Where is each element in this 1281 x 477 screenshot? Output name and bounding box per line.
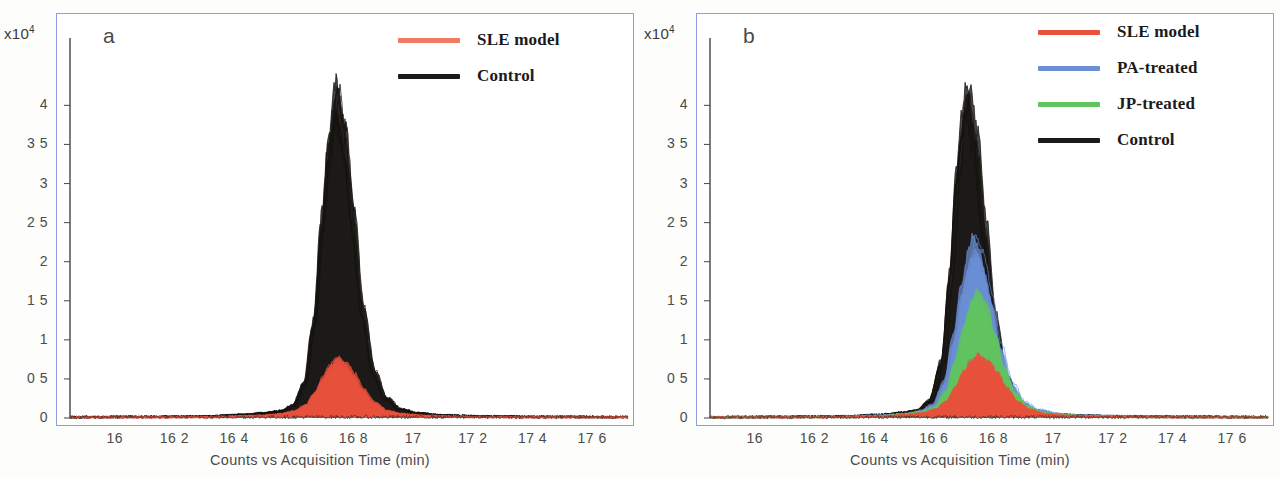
panel-a: x104 a SLE model Control 00 511 522 533 … xyxy=(0,0,640,477)
panel-a-legend: SLE model Control xyxy=(398,30,560,102)
legend-swatch-sle-model xyxy=(1038,30,1100,35)
legend-item: JP-treated xyxy=(1038,94,1200,114)
legend-item: SLE model xyxy=(1038,22,1200,42)
y-tick-label: 2 5 xyxy=(0,214,48,230)
legend-item: PA-treated xyxy=(1038,58,1200,78)
x-tick-label: 17 2 xyxy=(1083,430,1143,446)
panel-a-letter: a xyxy=(103,24,115,48)
x-tick-label: 16 2 xyxy=(784,430,844,446)
x-tick-label: 17 xyxy=(383,430,443,446)
y-tick-label: 3 xyxy=(640,175,688,191)
x-tick-label: 16 4 xyxy=(844,430,904,446)
legend-item: SLE model xyxy=(398,30,560,50)
y-tick-label: 2 5 xyxy=(640,214,688,230)
panel-b-axis-title: Counts vs Acquisition Time (min) xyxy=(640,452,1280,468)
y-tick-label: 0 5 xyxy=(0,370,48,386)
legend-label-jp-treated: JP-treated xyxy=(1117,94,1195,114)
y-tick-label: 2 xyxy=(0,253,48,269)
legend-label-pa-treated: PA-treated xyxy=(1117,58,1198,78)
panel-a-axis-title: Counts vs Acquisition Time (min) xyxy=(0,452,640,468)
chromatogram-figure: x104 a SLE model Control 00 511 522 533 … xyxy=(0,0,1281,477)
legend-swatch-control xyxy=(398,74,460,79)
panel-b-legend: SLE model PA-treated JP-treated Control xyxy=(1038,22,1200,166)
x-tick-label: 17 6 xyxy=(1202,430,1262,446)
x-tick-label: 16 6 xyxy=(264,430,324,446)
legend-swatch-jp-treated xyxy=(1038,102,1100,107)
x-tick-label: 17 6 xyxy=(562,430,622,446)
y-tick-label: 3 5 xyxy=(640,135,688,151)
y-tick-label: 2 xyxy=(640,253,688,269)
panel-b: x104 b SLE model PA-treated JP-treated C… xyxy=(640,0,1280,477)
x-tick-label: 16 xyxy=(725,430,785,446)
x-tick-label: 17 2 xyxy=(443,430,503,446)
legend-label-sle-model: SLE model xyxy=(477,30,560,50)
y-tick-label: 3 5 xyxy=(0,135,48,151)
x-tick-label: 17 4 xyxy=(1143,430,1203,446)
y-tick-label: 1 5 xyxy=(0,292,48,308)
legend-label-sle-model: SLE model xyxy=(1117,22,1200,42)
legend-swatch-pa-treated xyxy=(1038,66,1100,71)
legend-swatch-sle-model xyxy=(398,38,460,43)
legend-label-control: Control xyxy=(1117,130,1175,150)
y-tick-label: 1 5 xyxy=(640,292,688,308)
x-tick-label: 16 4 xyxy=(204,430,264,446)
legend-item: Control xyxy=(1038,130,1200,150)
y-tick-label: 1 xyxy=(0,331,48,347)
x-tick-label: 16 xyxy=(85,430,145,446)
y-tick-label: 4 xyxy=(640,96,688,112)
x-tick-label: 16 6 xyxy=(904,430,964,446)
x-tick-label: 17 xyxy=(1023,430,1083,446)
legend-swatch-control xyxy=(1038,138,1100,143)
legend-item: Control xyxy=(398,66,560,86)
y-tick-label: 4 xyxy=(0,96,48,112)
x-tick-label: 16 2 xyxy=(144,430,204,446)
panel-b-letter: b xyxy=(743,24,755,48)
x-tick-label: 16 8 xyxy=(323,430,383,446)
x-tick-label: 16 8 xyxy=(963,430,1023,446)
y-tick-label: 1 xyxy=(640,331,688,347)
y-tick-label: 3 xyxy=(0,175,48,191)
y-tick-label: 0 xyxy=(0,409,48,425)
y-tick-label: 0 5 xyxy=(640,370,688,386)
legend-label-control: Control xyxy=(477,66,535,86)
x-tick-label: 17 4 xyxy=(503,430,563,446)
y-tick-label: 0 xyxy=(640,409,688,425)
